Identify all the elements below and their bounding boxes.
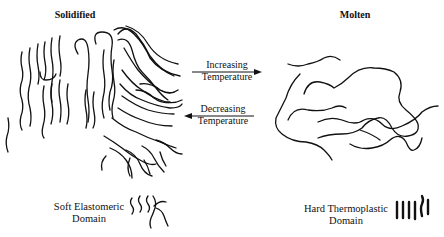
hard-domain-line2: Domain — [298, 215, 394, 227]
hard-domain-symbol — [397, 196, 428, 219]
soft-domain-legend: Soft Elastomeric Domain — [44, 201, 134, 225]
molten-title: Molten — [325, 9, 385, 21]
soft-domain-symbol — [131, 196, 169, 228]
soft-domain-line1: Soft Elastomeric — [44, 201, 134, 213]
decreasing-line1: Decreasing — [188, 103, 258, 115]
soft-domain-line2: Domain — [44, 213, 134, 225]
solidified-structure — [6, 26, 182, 178]
increasing-line1: Increasing — [192, 59, 262, 71]
increasing-line2: Temperature — [192, 71, 262, 83]
molten-structure — [276, 56, 438, 160]
decreasing-line2: Temperature — [188, 115, 258, 127]
solidified-title: Solidified — [45, 9, 105, 21]
decreasing-label: Decreasing Temperature — [188, 103, 258, 126]
hard-domain-line1: Hard Thermoplastic — [298, 203, 394, 215]
hard-domain-legend: Hard Thermoplastic Domain — [298, 203, 394, 227]
increasing-label: Increasing Temperature — [192, 59, 262, 82]
